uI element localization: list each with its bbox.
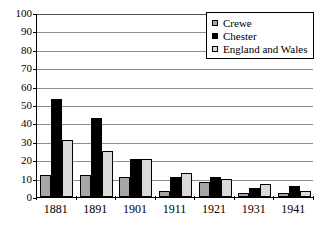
x-tick-label: 1911 [155,202,195,216]
x-tick-label: 1931 [234,202,274,216]
bar [249,188,260,197]
y-tick-label: 100 [2,8,32,19]
bar [289,186,300,197]
bar [62,140,73,197]
legend-item: England and Wales [212,42,309,55]
crewe-swatch-icon [212,20,218,26]
x-tick-mark [76,196,77,200]
x-tick-mark [194,196,195,200]
y-tick-label: 50 [2,100,32,111]
bar-group [40,14,73,197]
bar [119,177,130,197]
x-tick-mark [115,196,116,200]
bar [210,177,221,197]
bar [141,159,152,197]
x-tick-label: 1941 [273,202,313,216]
y-tick-label: 40 [2,118,32,129]
y-tick-label: 20 [2,155,32,166]
x-tick-label: 1891 [76,202,116,216]
bar [300,191,311,197]
bar [80,175,91,197]
y-tick-label: 10 [2,174,32,185]
legend-item-label: England and Wales [223,43,307,55]
bar [181,173,192,197]
bar [51,99,62,197]
bar [221,179,232,197]
y-axis: 0102030405060708090100 [0,14,32,198]
y-tick-label: 60 [2,82,32,93]
bar [278,193,289,197]
y-tick-label: 30 [2,137,32,148]
bar [102,151,113,197]
legend-item: Crewe [212,16,309,29]
bar [170,177,181,197]
x-tick-mark [36,196,37,200]
bar-chart: 0102030405060708090100 18811891190119111… [0,0,329,232]
bar [260,184,271,197]
x-tick-label: 1901 [115,202,155,216]
x-tick-mark [273,196,274,200]
bar [40,175,51,197]
bar-group [80,14,113,197]
bar-group [119,14,152,197]
bar [91,118,102,197]
bar [159,191,170,197]
bar [199,182,210,197]
chester-swatch-icon [212,33,218,39]
x-tick-mark [313,196,314,200]
x-tick-mark [155,196,156,200]
x-tick-label: 1881 [36,202,76,216]
england-and-wales-swatch-icon [212,46,218,52]
x-axis: 1881189119011911192119311941 [36,200,313,220]
legend-item-label: Chester [223,30,257,42]
bar [130,159,141,197]
y-tick-label: 90 [2,26,32,37]
legend-item-label: Crewe [223,17,252,29]
legend-item: Chester [212,29,309,42]
y-tick-label: 0 [2,192,32,203]
y-tick-label: 70 [2,63,32,74]
x-tick-mark [234,196,235,200]
x-tick-label: 1921 [194,202,234,216]
bar-group [159,14,192,197]
chart-legend: Crewe Chester England and Wales [206,12,314,59]
y-tick-label: 80 [2,45,32,56]
bar [238,193,249,197]
